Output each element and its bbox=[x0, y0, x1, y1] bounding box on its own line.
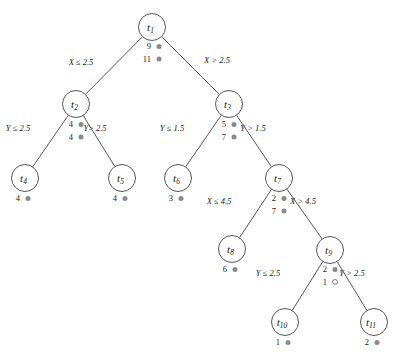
tree-node-t3[interactable]: t3 bbox=[216, 91, 243, 118]
tree-edge-t1-t2 bbox=[85, 37, 142, 95]
edge-label-t2-t5: Y> 2.5 bbox=[83, 123, 106, 133]
count-value-t5-0: 4 bbox=[113, 193, 118, 203]
counts-layer: 91144574432762112 bbox=[16, 41, 380, 347]
edge-label-t9-t10: Y ≤ 2.5 bbox=[256, 268, 280, 278]
edge-label-t3-t6: Y ≤ 1.5 bbox=[160, 123, 184, 133]
class-marker-filled-t2-0 bbox=[79, 122, 84, 127]
edge-label-t2-t4: Y ≤ 2.5 bbox=[6, 123, 30, 133]
tree-edge-t3-t6 bbox=[186, 115, 222, 167]
node-counts-t10: 1 bbox=[276, 337, 291, 347]
class-marker-filled-t3-1 bbox=[232, 134, 237, 139]
count-value-t9-1: 1 bbox=[323, 277, 327, 287]
tree-node-t9[interactable]: t9 bbox=[317, 237, 344, 264]
count-value-t9-0: 2 bbox=[323, 264, 327, 274]
count-value-t7-0: 2 bbox=[272, 193, 276, 203]
edge-label-t7-t8: X ≤ 4.5 bbox=[206, 196, 232, 206]
tree-edge-t1-t3 bbox=[162, 37, 220, 95]
node-counts-t1: 911 bbox=[143, 41, 162, 64]
node-counts-t9: 21 bbox=[323, 264, 338, 287]
class-marker-filled-t4-0 bbox=[26, 196, 31, 201]
edge-label-t7-t9: X > 4.5 bbox=[289, 196, 316, 206]
count-value-t1-1: 11 bbox=[143, 54, 151, 64]
node-counts-t2: 44 bbox=[69, 119, 84, 142]
tree-edge-t9-t10 bbox=[292, 261, 323, 310]
count-value-t1-0: 9 bbox=[147, 41, 151, 51]
count-value-t4-0: 4 bbox=[16, 193, 21, 203]
tree-node-t6[interactable]: t6 bbox=[165, 165, 192, 192]
node-counts-t7: 27 bbox=[272, 193, 287, 216]
node-counts-t5: 4 bbox=[113, 193, 128, 203]
node-counts-t11: 2 bbox=[365, 337, 380, 347]
tree-node-t4[interactable]: t4 bbox=[12, 165, 39, 192]
class-marker-filled-t10-0 bbox=[286, 340, 291, 345]
count-value-t2-0: 4 bbox=[69, 119, 74, 129]
count-value-t7-1: 7 bbox=[272, 206, 276, 216]
node-counts-t6: 3 bbox=[169, 193, 184, 203]
tree-node-t5[interactable]: t5 bbox=[109, 165, 136, 192]
tree-node-t11[interactable]: t11 bbox=[361, 309, 388, 336]
class-marker-filled-t7-0 bbox=[282, 196, 287, 201]
tree-node-t8[interactable]: t8 bbox=[219, 236, 246, 263]
node-counts-t4: 4 bbox=[16, 193, 31, 203]
class-marker-filled-t7-1 bbox=[282, 208, 287, 213]
tree-edge-t7-t8 bbox=[239, 189, 271, 237]
edge-label-t9-t11: Y > 2.5 bbox=[339, 268, 364, 278]
class-marker-filled-t1-1 bbox=[157, 56, 162, 61]
tree-node-t2[interactable]: t2 bbox=[63, 91, 90, 118]
count-value-t3-1: 7 bbox=[222, 132, 226, 142]
class-marker-filled-t9-0 bbox=[333, 267, 338, 272]
class-marker-filled-t11-0 bbox=[375, 340, 380, 345]
tree-node-t10[interactable]: t10 bbox=[272, 309, 299, 336]
count-value-t2-1: 4 bbox=[69, 132, 74, 142]
count-value-t10-0: 1 bbox=[276, 337, 280, 347]
tree-node-t1[interactable]: t1 bbox=[139, 14, 166, 41]
class-marker-filled-t5-0 bbox=[123, 196, 128, 201]
node-counts-t8: 6 bbox=[223, 264, 238, 274]
edge-label-t1-t3: X > 2.5 bbox=[203, 55, 230, 65]
count-value-t8-0: 6 bbox=[223, 264, 227, 274]
tree-edge-t2-t4 bbox=[33, 115, 69, 167]
decision-tree-diagram: t1t2t3t4t5t6t7t8t9t10t11 X ≤ 2.5X > 2.5Y… bbox=[0, 0, 401, 360]
edge-label-t1-t2: X ≤ 2.5 bbox=[68, 57, 94, 67]
class-marker-filled-t8-0 bbox=[233, 267, 238, 272]
node-counts-t3: 57 bbox=[222, 119, 237, 142]
tree-node-t7[interactable]: t7 bbox=[266, 165, 293, 192]
class-marker-filled-t2-1 bbox=[79, 134, 84, 139]
count-value-t3-0: 5 bbox=[222, 119, 226, 129]
edge-label-t3-t7: Y > 1.5 bbox=[240, 123, 265, 133]
class-marker-filled-t6-0 bbox=[179, 196, 184, 201]
class-marker-open-t9-1 bbox=[333, 280, 338, 285]
count-value-t6-0: 3 bbox=[169, 193, 173, 203]
edges-layer bbox=[33, 37, 367, 311]
class-marker-filled-t3-0 bbox=[232, 122, 237, 127]
class-marker-filled-t1-0 bbox=[157, 44, 162, 49]
count-value-t11-0: 2 bbox=[365, 337, 369, 347]
